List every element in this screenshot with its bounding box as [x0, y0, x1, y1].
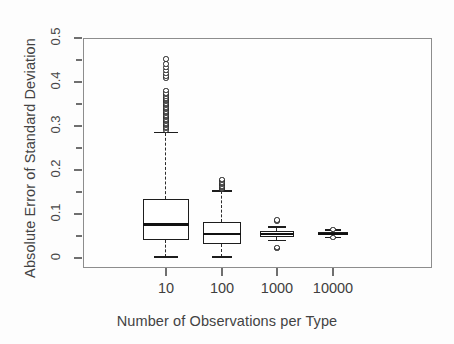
outlier-point — [274, 217, 279, 222]
box-iqr — [143, 199, 189, 240]
outlier-point — [219, 177, 224, 182]
outlier-point — [163, 56, 168, 61]
y-tick-major — [74, 125, 82, 126]
whisker-lower — [165, 240, 166, 257]
outlier-point — [330, 227, 335, 232]
x-tick — [276, 268, 277, 276]
whisker-cap-lower — [154, 256, 178, 258]
median-line — [260, 233, 294, 236]
whisker-upper — [165, 133, 166, 200]
x-tick — [221, 268, 222, 276]
whisker-cap-lower — [212, 256, 232, 258]
y-tick-label: 0.1 — [48, 198, 63, 228]
median-line — [203, 233, 241, 236]
y-tick-label: 0.5 — [48, 22, 63, 52]
x-tick-label: 10000 — [293, 280, 373, 296]
outlier-point — [163, 61, 168, 66]
y-tick-major — [74, 257, 82, 258]
whisker-cap-lower — [268, 240, 286, 242]
y-tick-label: 0.2 — [48, 154, 63, 184]
median-line — [143, 223, 189, 226]
y-tick-label: 0.3 — [48, 110, 63, 140]
whisker-lower — [221, 244, 222, 257]
whisker-cap-upper — [268, 226, 286, 228]
y-tick-label: 0 — [48, 242, 63, 272]
x-tick — [165, 268, 166, 276]
y-tick-major — [74, 169, 82, 170]
y-tick-minor — [76, 147, 82, 148]
y-tick-major — [74, 213, 82, 214]
y-tick-minor — [76, 103, 82, 104]
plot-area — [83, 38, 432, 268]
x-axis-title: Number of Observations per Type — [0, 313, 454, 329]
y-tick-minor — [76, 235, 82, 236]
boxplot-figure: Absolute Error of Standard Deviation Num… — [0, 0, 454, 344]
x-tick — [332, 268, 333, 276]
y-tick-label: 0.4 — [48, 66, 63, 96]
y-tick-major — [74, 81, 82, 82]
outlier-point — [274, 245, 279, 250]
whisker-upper — [221, 191, 222, 222]
y-tick-minor — [76, 191, 82, 192]
y-tick-major — [74, 37, 82, 38]
y-tick-minor — [76, 59, 82, 60]
y-axis-title: Absolute Error of Standard Deviation — [22, 32, 38, 284]
